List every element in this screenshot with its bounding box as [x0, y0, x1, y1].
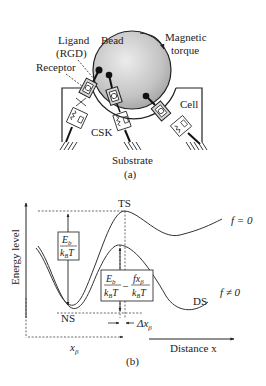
svg-text:–: –: [122, 280, 129, 291]
bead-label: Bead: [101, 34, 124, 46]
reduced-barrier-box: Eb kBT – fxβ kBT: [101, 270, 153, 301]
receptor-leader: [66, 74, 82, 86]
ligand-label: Ligand: [58, 34, 90, 46]
x-beta-label: xβ: [69, 341, 79, 356]
panel-a-caption: (a): [124, 168, 137, 181]
energy-barrier-box: Eb kBT: [58, 232, 79, 260]
cell-label: Cell: [180, 98, 198, 110]
substrate-label: Substrate: [112, 154, 153, 166]
magnetic-label: Magnetic: [165, 31, 207, 43]
svg-text:kBT: kBT: [104, 287, 119, 299]
panel-b-caption: (b): [126, 355, 139, 368]
figure-canvas: Ligand (RGD) Bead Magnetic torque Recept…: [0, 0, 266, 386]
substrate-hatches: [60, 142, 207, 150]
panel-a: Ligand (RGD) Bead Magnetic torque Recept…: [36, 31, 207, 181]
ns-label: NS: [61, 312, 75, 324]
csk-label: CSK: [91, 126, 112, 138]
svg-text:kBT: kBT: [60, 247, 75, 259]
ligand-leader: [78, 60, 94, 79]
panel-b: Energy level Eb kBT Eb: [9, 197, 253, 368]
delta-x-beta-label: Δxβ: [136, 317, 152, 332]
ts-label: TS: [118, 197, 131, 209]
receptor-label: Receptor: [36, 61, 76, 73]
f-zero-label: f = 0: [231, 214, 253, 226]
ligand-sub-label: (RGD): [56, 47, 87, 60]
y-axis-label: Energy level: [9, 229, 21, 285]
svg-text:kBT: kBT: [132, 287, 147, 299]
torque-label: torque: [171, 44, 199, 56]
f-nonzero-label: f ≠ 0: [220, 286, 241, 298]
ds-label: DS: [193, 295, 207, 307]
x-axis-label: Distance x: [170, 342, 217, 354]
